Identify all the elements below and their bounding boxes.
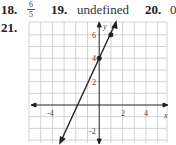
y-axis-label: y — [102, 22, 107, 31]
point-0-4 — [97, 56, 101, 60]
y-tick-4: 4 — [92, 54, 96, 63]
x-axis-left-arrow-icon — [31, 103, 36, 107]
x-tick-4: 4 — [144, 109, 148, 118]
y-tick-6: 6 — [92, 31, 96, 40]
x-tick-neg4: -4 — [47, 109, 54, 118]
x-tick-2: 2 — [121, 109, 125, 118]
y-axis-down-arrow-icon — [97, 139, 101, 144]
coordinate-graph: -4 2 4 6 4 2 -2 x y — [0, 0, 176, 145]
y-tick-2: 2 — [92, 78, 96, 87]
x-axis-label: x — [163, 111, 168, 120]
axes — [31, 22, 168, 144]
plotted-line — [60, 22, 117, 143]
line-y-equals-2x-plus-4 — [61, 24, 115, 141]
grid — [29, 22, 167, 143]
point-1-6 — [109, 33, 113, 37]
line-top-arrow-icon — [113, 22, 117, 28]
y-tick-neg2: -2 — [89, 127, 96, 136]
y-axis-up-arrow-icon — [97, 22, 101, 27]
